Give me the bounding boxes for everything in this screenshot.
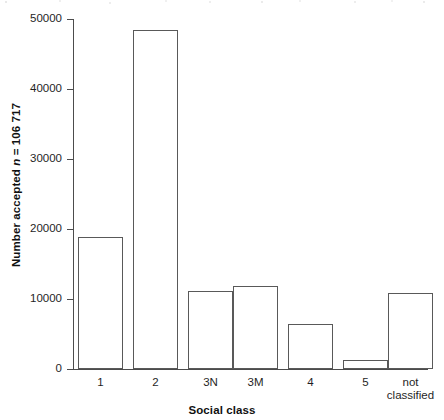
y-tick-label-30000: 30000 [30,153,62,165]
y-tick-mark-40000 [67,89,73,90]
y-tick-mark-30000 [67,159,73,160]
bar-not-classified[interactable] [388,293,433,369]
bar-social-class-3n[interactable] [188,291,233,369]
y-tick-label-0: 0 [56,363,62,375]
x-axis-title: Social class [0,404,444,416]
x-axis-line [73,369,428,370]
y-tick-mark-10000 [67,299,73,300]
y-tick-label-40000: 40000 [30,83,62,95]
y-axis-title-symbol: n [10,159,22,166]
y-tick-label-10000: 10000 [30,293,62,305]
y-axis-title-total: 106 717 [10,103,22,145]
y-tick-label-50000: 50000 [30,13,62,25]
y-axis-title-main: Number accepted [10,169,22,267]
y-axis-title: Number accepted n = 106 717 [6,0,26,370]
bar-social-class-2[interactable] [133,30,178,369]
y-tick-label-20000: 20000 [30,223,62,235]
bar-social-class-3m[interactable] [233,286,278,369]
y-axis-line [73,19,74,370]
y-tick-mark-50000 [67,19,73,20]
y-tick-mark-0 [67,369,73,370]
y-tick-mark-20000 [67,229,73,230]
x-tick-label-not-classified: not classified [376,376,444,402]
y-axis-title-equals: = [10,149,22,156]
bar-chart-figure: 0 10000 20000 30000 40000 50000 1 2 3N 3… [0,0,444,420]
bar-social-class-5[interactable] [343,360,388,369]
bar-social-class-1[interactable] [78,237,123,369]
bar-social-class-4[interactable] [288,324,333,369]
